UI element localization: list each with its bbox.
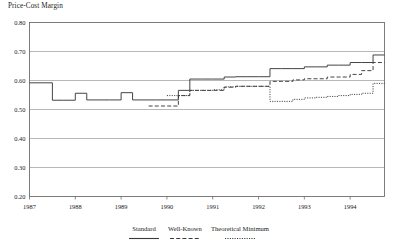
legend-item-well-known[interactable]: Well-Known xyxy=(168,225,202,241)
x-tick-label: 1994 xyxy=(344,203,358,210)
series-line-theoretical-minimum xyxy=(167,83,385,101)
y-tick-label: 0.60 xyxy=(14,77,25,84)
y-tick-label: 0.20 xyxy=(14,193,25,200)
legend-swatch-dotted-icon xyxy=(225,236,255,241)
y-tick-label: 0.80 xyxy=(14,19,25,26)
gridlines-group xyxy=(30,52,385,168)
x-tick-label: 1993 xyxy=(298,203,311,210)
x-tick-label: 1988 xyxy=(69,203,82,210)
legend-item-theoretical-minimum[interactable]: Theoretical Minimum xyxy=(211,225,269,241)
x-axis-ticks: 19871988198919901991199219931994 xyxy=(23,197,357,210)
legend-swatch-dashed-icon xyxy=(170,236,200,241)
legend-swatch-solid-icon xyxy=(129,236,159,241)
x-tick-label: 1987 xyxy=(23,203,37,210)
price-cost-margin-line-chart: 0.800.700.600.500.400.300.20 19871988198… xyxy=(0,0,398,249)
series-line-standard xyxy=(30,55,385,100)
y-axis-ticks: 0.800.700.600.500.400.300.20 xyxy=(14,19,25,200)
x-tick-label: 1992 xyxy=(252,203,265,210)
y-tick-label: 0.50 xyxy=(14,106,25,113)
x-tick-label: 1990 xyxy=(161,203,174,210)
legend-label: Standard xyxy=(132,225,155,233)
chart-legend: StandardWell-KnownTheoretical Minimum xyxy=(0,225,398,241)
legend-item-standard[interactable]: Standard xyxy=(129,225,159,241)
x-tick-label: 1991 xyxy=(206,203,219,210)
y-tick-label: 0.70 xyxy=(14,48,25,55)
figure-container: Price-Cost Margin 0.800.700.600.500.400.… xyxy=(0,0,398,249)
legend-label: Well-Known xyxy=(168,225,202,233)
series-line-well-known xyxy=(149,63,385,106)
y-tick-label: 0.40 xyxy=(14,135,25,142)
x-tick-label: 1989 xyxy=(115,203,128,210)
legend-label: Theoretical Minimum xyxy=(211,225,269,233)
y-tick-label: 0.30 xyxy=(14,164,25,171)
